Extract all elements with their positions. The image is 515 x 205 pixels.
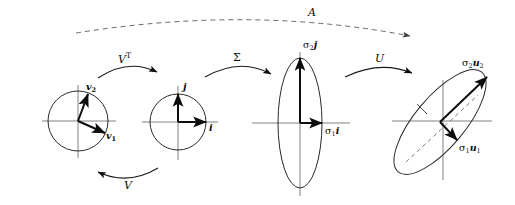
operator-label-v: V bbox=[124, 180, 132, 191]
sigma1-i-sub: 1 bbox=[332, 130, 336, 138]
operator-arc-sigma bbox=[205, 66, 271, 77]
svd-diagram-figure: A VT Σ U V v1 v2 i j σ1i σ2j σ1u1 σ2u2 bbox=[0, 0, 515, 205]
operator-label-v-transpose: VT bbox=[118, 52, 131, 65]
sigma-glyph: σ bbox=[325, 125, 332, 136]
sigma1-u1-basis: u bbox=[470, 142, 477, 153]
vector-label-v2-base: v bbox=[86, 81, 92, 92]
vector-label-sigma2-j: σ2j bbox=[303, 40, 317, 50]
sigma2-u2-basis: u bbox=[473, 57, 480, 68]
sigma2-j-basis: j bbox=[314, 39, 317, 50]
operator-arc-v-transpose bbox=[98, 66, 157, 78]
vector-label-v1-sub: 1 bbox=[112, 135, 117, 143]
vector-v2 bbox=[78, 94, 88, 121]
vector-label-i: i bbox=[209, 123, 213, 133]
stage-2-unit-circle bbox=[142, 86, 218, 160]
vector-label-v1: v1 bbox=[106, 131, 116, 141]
vector-label-sigma1-i: σ1i bbox=[325, 126, 339, 136]
sigma2-j-sub: 2 bbox=[310, 44, 314, 52]
sigma1-i-basis: i bbox=[336, 125, 340, 136]
stage-4-rotated-ellipse bbox=[379, 56, 501, 188]
vector-label-sigma2-u2: σ2u2 bbox=[462, 58, 484, 68]
vector-label-sigma1-u1: σ1u1 bbox=[459, 143, 481, 153]
diagram-canvas bbox=[0, 0, 515, 205]
vector-label-j: j bbox=[183, 82, 186, 92]
sigma-glyph: σ bbox=[303, 39, 310, 50]
vector-label-v1-base: v bbox=[106, 130, 112, 141]
operator-arc-v bbox=[98, 168, 158, 178]
vector-v1 bbox=[78, 121, 105, 133]
sigma2-u2-basis-sub: 2 bbox=[480, 62, 484, 70]
sigma-glyph: σ bbox=[459, 142, 466, 153]
operator-label-u: U bbox=[375, 53, 384, 64]
operator-arc-u bbox=[345, 67, 412, 77]
vector-label-v2-sub: 2 bbox=[92, 86, 97, 94]
operator-label-sigma: Σ bbox=[233, 52, 241, 63]
stage-1-unit-circle bbox=[42, 85, 116, 158]
sigma1-u1-sub: 1 bbox=[466, 147, 470, 155]
operator-label-v-transpose-base: V bbox=[118, 53, 126, 66]
vector-sigma2-u2 bbox=[440, 77, 487, 122]
vector-label-v2: v2 bbox=[86, 82, 96, 92]
sigma2-u2-sub: 2 bbox=[469, 62, 473, 70]
operator-label-a: A bbox=[308, 7, 316, 18]
operator-arc-a bbox=[76, 20, 410, 36]
sigma1-u1-basis-sub: 1 bbox=[477, 147, 481, 155]
sigma-glyph: σ bbox=[462, 57, 469, 68]
stage-3-scaled-ellipse bbox=[252, 52, 350, 196]
operator-label-v-transpose-sup: T bbox=[126, 51, 131, 60]
